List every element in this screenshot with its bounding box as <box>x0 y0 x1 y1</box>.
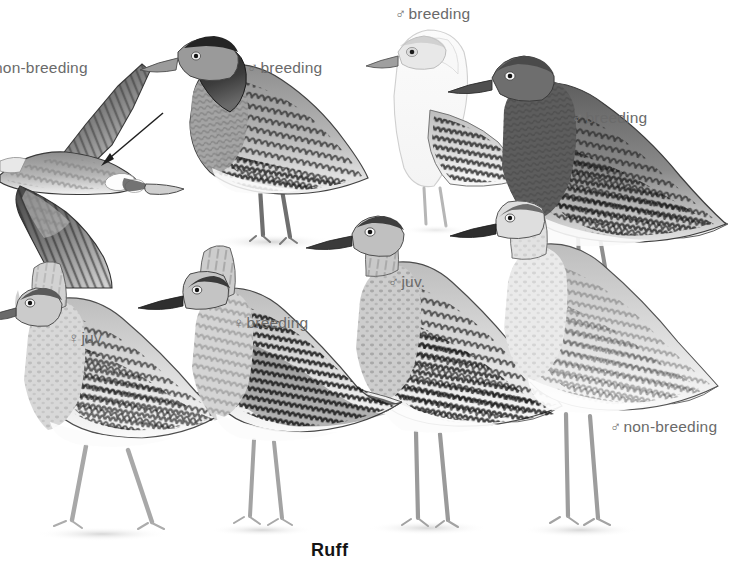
male-symbol-icon: ♂ <box>247 59 260 76</box>
species-name: Ruff <box>311 540 348 561</box>
label-female-juvenile: ♀juv. <box>68 330 105 346</box>
label-male-juvenile-text: juv. <box>401 273 425 290</box>
female-symbol-icon: ♀ <box>68 329 81 346</box>
male-symbol-icon: ♂ <box>388 273 401 290</box>
label-flight-non-breeding-text: non-breeding <box>0 60 88 76</box>
label-male-breeding-white: ♂breeding <box>395 6 470 22</box>
label-female-juvenile-text: juv. <box>81 329 105 346</box>
label-female-breeding: ♀breeding <box>233 315 308 331</box>
field-guide-plate: non-breeding ♂breeding ♂breeding ♂breedi… <box>0 0 749 576</box>
label-male-non-breeding-text: non-breeding <box>623 418 717 435</box>
male-symbol-icon: ♂ <box>395 5 408 22</box>
label-female-breeding-text: breeding <box>246 314 308 331</box>
label-male-breeding-white-text: breeding <box>408 5 470 22</box>
figure-male-breeding-white <box>366 30 520 235</box>
figure-flying-bird-dorsal <box>0 64 184 288</box>
label-male-breeding-rufous-text: breeding <box>585 109 647 126</box>
label-male-non-breeding: ♂non-breeding <box>610 419 717 435</box>
label-flight-non-breeding: non-breeding <box>0 60 96 76</box>
bird-illustrations-artwork <box>0 0 749 576</box>
label-male-breeding-dark-text: breeding <box>260 59 322 76</box>
female-symbol-icon: ♀ <box>233 314 246 331</box>
male-symbol-icon: ♂ <box>572 109 585 126</box>
label-male-breeding-rufous: ♂breeding <box>572 110 647 126</box>
label-male-breeding-dark: ♂breeding <box>247 60 322 76</box>
male-symbol-icon: ♂ <box>610 418 623 435</box>
label-male-juvenile: ♂juv. <box>388 274 425 290</box>
